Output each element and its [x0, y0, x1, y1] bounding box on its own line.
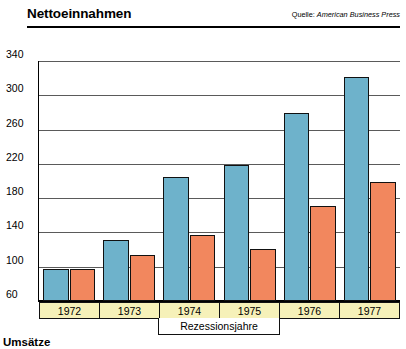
bar-1972-series-orange — [70, 269, 96, 301]
year-label-1973: 1973 — [100, 303, 160, 318]
x-axis-year-band: 197219731974197519761977 — [39, 302, 400, 319]
y-axis-tick-label: 260 — [6, 118, 36, 129]
bar-1974-series-orange — [190, 235, 216, 301]
recession-years-bracket: Rezessionsjahre — [158, 318, 280, 335]
bar-1977-series-blue — [344, 77, 370, 301]
bar-1974-series-blue — [163, 177, 189, 301]
footer-title: Umsätze — [3, 336, 50, 348]
year-label-1975: 1975 — [220, 303, 280, 318]
page-title: Nettoeinnahmen — [27, 6, 131, 21]
header-divider — [27, 26, 400, 28]
chart-header: Nettoeinnahmen Quelle: American Business… — [0, 0, 406, 30]
y-axis-tick-label: 340 — [6, 49, 36, 60]
bar-1976-series-orange — [310, 206, 336, 301]
chart-plot-area — [39, 61, 400, 301]
year-label-1976: 1976 — [280, 303, 340, 318]
year-label-1972: 1972 — [40, 303, 100, 318]
y-axis-tick-label: 60 — [6, 289, 36, 300]
y-axis-tick-label: 180 — [6, 186, 36, 197]
source-attribution: Quelle: American Business Press — [292, 10, 400, 19]
y-axis-tick-label: 100 — [6, 255, 36, 266]
bar-1972-series-blue — [43, 269, 69, 301]
year-label-1974: 1974 — [160, 303, 220, 318]
bar-1973-series-orange — [130, 255, 156, 301]
bar-1975-series-blue — [224, 165, 250, 301]
source-label: Quelle: — [292, 10, 315, 19]
year-label-1977: 1977 — [340, 303, 399, 318]
bar-1975-series-orange — [250, 249, 276, 301]
bar-1977-series-orange — [370, 182, 396, 301]
gridline — [39, 61, 400, 62]
y-axis-tick-label: 140 — [6, 220, 36, 231]
y-axis-tick-label: 300 — [6, 83, 36, 94]
source-name: American Business Press — [317, 10, 400, 19]
y-axis-tick-label: 220 — [6, 152, 36, 163]
bar-1973-series-blue — [103, 240, 129, 301]
bar-1976-series-blue — [284, 113, 310, 301]
